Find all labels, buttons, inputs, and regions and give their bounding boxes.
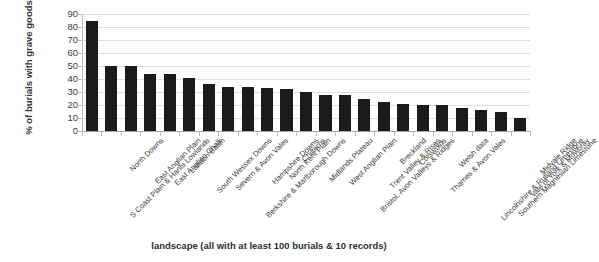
y-axis-tick-mark (77, 131, 82, 132)
bar-slot (433, 14, 452, 131)
y-axis-tick-label: 50 (56, 61, 78, 71)
bar (105, 66, 117, 131)
bar-slot (218, 14, 237, 131)
y-axis-title: % of burials with grave goods (23, 0, 34, 143)
bar (378, 102, 390, 131)
x-axis-category-label: Vale of York & Mowbray (528, 136, 591, 199)
y-axis-tick-mark (77, 79, 82, 80)
bar (514, 118, 526, 131)
bar-slot (452, 14, 471, 131)
bar (86, 21, 98, 132)
y-axis-tick-label: 20 (56, 100, 78, 110)
y-axis-tick-mark (77, 118, 82, 119)
y-axis-tick-mark (77, 53, 82, 54)
bar-slot (335, 14, 354, 131)
bar (495, 112, 507, 132)
bar (222, 87, 234, 131)
y-axis-tick-label: 80 (56, 22, 78, 32)
bar (203, 84, 215, 131)
y-axis-tick-label: 40 (56, 74, 78, 84)
bar (300, 92, 312, 131)
bar-slot (472, 14, 491, 131)
bar-slot (140, 14, 159, 131)
y-axis-tick-mark (77, 27, 82, 28)
y-axis-tick-mark (77, 14, 82, 15)
bar (319, 95, 331, 131)
bar-slot (82, 14, 101, 131)
bar-slot (257, 14, 276, 131)
bar-slot (511, 14, 530, 131)
bar-slot (179, 14, 198, 131)
bar (436, 105, 448, 131)
bar-slot (199, 14, 218, 131)
bar (456, 108, 468, 131)
x-axis-category-labels: S Coast Plain & Hants LowlandsNorth Down… (0, 136, 538, 232)
x-axis-title: landscape (all with at least 100 burials… (0, 240, 538, 251)
x-axis-category-label: North Downs (128, 136, 165, 173)
bar (417, 105, 429, 131)
x-axis-category-label: Southern Magnesian Limestone (517, 136, 599, 218)
bar-slot (394, 14, 413, 131)
bar (125, 66, 137, 131)
bar (242, 87, 254, 131)
bar (397, 104, 409, 131)
bar-series (82, 14, 530, 131)
y-axis-tick-label: 0 (56, 126, 78, 136)
y-axis-tick-mark (77, 40, 82, 41)
bar-slot (296, 14, 315, 131)
y-axis-tick-label: 70 (56, 35, 78, 45)
y-axis-tick-label: 30 (56, 87, 78, 97)
bar-slot (160, 14, 179, 131)
clipped-chart-title (0, 0, 538, 3)
bar (339, 95, 351, 131)
bar-slot (355, 14, 374, 131)
bar (261, 88, 273, 131)
x-axis-category-label: S Coast Plain & Hants Lowlands (128, 136, 212, 220)
y-axis-tick-label: 10 (56, 113, 78, 123)
y-axis-tick-label: 60 (56, 48, 78, 58)
bar-slot (238, 14, 257, 131)
y-axis-tick-mark (77, 66, 82, 67)
bar-slot (413, 14, 432, 131)
bar (183, 78, 195, 131)
bar (475, 110, 487, 131)
bar (164, 74, 176, 131)
bar (280, 89, 292, 131)
bar-slot (316, 14, 335, 131)
y-axis-tick-labels: 9080706050403020100 (52, 14, 78, 132)
bar-slot (374, 14, 393, 131)
y-axis-tick-mark (77, 92, 82, 93)
bar-slot (121, 14, 140, 131)
bar (144, 74, 156, 131)
bar-slot (277, 14, 296, 131)
bar-slot (101, 14, 120, 131)
bar (358, 99, 370, 132)
y-axis-tick-label: 90 (56, 9, 78, 19)
bar-slot (491, 14, 510, 131)
y-axis-tick-mark (77, 105, 82, 106)
